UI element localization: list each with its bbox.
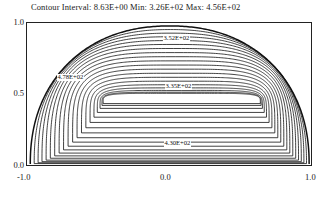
contour-label-335: 3.35E+02 [165,83,192,90]
figure-header-text: Contour Interval: 8.63E+00 Min: 3.26E+02… [31,2,240,12]
contour-label-352: 3.52E+02 [163,35,190,42]
y-tick-3: 0.0 [2,160,24,170]
contour-20 [103,93,260,103]
contour-plot-figure: Contour Interval: 8.63E+00 Min: 3.26E+02… [0,0,330,197]
contour-label-478: 4.78E+02 [57,74,84,81]
contour-label-430: 4.30E+02 [164,140,191,147]
y-tick-2: 0.5 [2,88,24,98]
x-tick-2: 0.0 [160,172,171,182]
x-tick-1: -1.0 [17,172,30,182]
y-tick-1: 1.0 [2,17,24,27]
x-tick-3: 1.0 [305,172,316,182]
